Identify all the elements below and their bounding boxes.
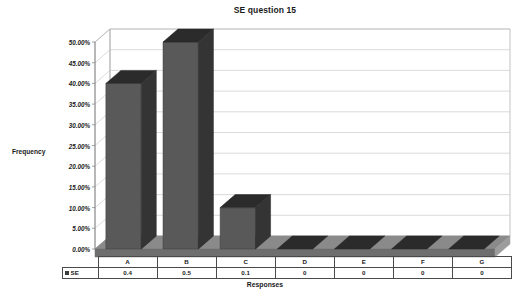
bar-front-face <box>106 83 141 249</box>
table-category-cell: D <box>275 257 334 268</box>
bar-side-face <box>141 70 156 249</box>
chart-container: SE question 15 Frequency 0.00%5.00%10.00… <box>0 0 530 296</box>
bar-B[interactable] <box>163 29 213 249</box>
table-category-cell: F <box>393 257 452 268</box>
bar-front-face <box>220 208 255 249</box>
table-category-cell: A <box>98 257 157 268</box>
bar-A[interactable] <box>106 70 156 249</box>
legend-series-cell[interactable]: SE <box>63 268 99 279</box>
plot-area <box>0 0 530 296</box>
bar-front-face <box>163 42 198 249</box>
table-category-cell: B <box>157 257 216 268</box>
square-marker-icon <box>65 271 69 275</box>
table-value-cell: 0 <box>334 268 393 279</box>
table-row-categories: ABCDEFG <box>63 257 512 268</box>
legend-series-label: SE <box>71 269 79 276</box>
table-category-cell: G <box>452 257 511 268</box>
table-row-values: SE 0.40.50.10000 <box>63 268 512 279</box>
table-value-cell: 0.1 <box>216 268 275 279</box>
table-corner-cell <box>63 257 99 268</box>
table-category-cell: C <box>216 257 275 268</box>
gridline-side-connector <box>95 50 110 63</box>
data-table: ABCDEFG SE 0.40.50.10000 <box>62 256 512 279</box>
table-value-cell: 0 <box>452 268 511 279</box>
table-value-cell: 0.4 <box>98 268 157 279</box>
bar-C[interactable] <box>220 195 270 249</box>
x-axis-title: Responses <box>0 281 530 288</box>
table-category-cell: E <box>334 257 393 268</box>
table-value-cell: 0 <box>393 268 452 279</box>
bar-side-face <box>198 29 213 249</box>
table-value-cell: 0.5 <box>157 268 216 279</box>
table-value-cell: 0 <box>275 268 334 279</box>
